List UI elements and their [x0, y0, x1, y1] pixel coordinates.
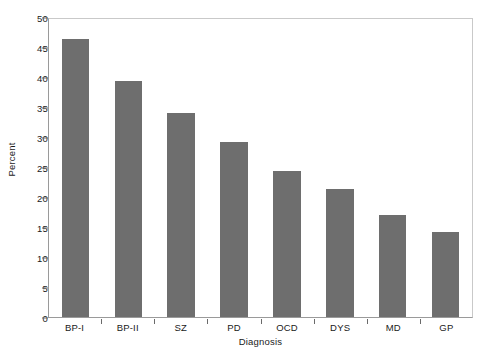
- x-axis-category-label: OCD: [261, 322, 314, 336]
- x-axis-category-label: BP-II: [101, 322, 154, 336]
- bar-slot: [208, 19, 261, 317]
- x-axis-category-label: MD: [367, 322, 420, 336]
- x-axis-category-labels: BP-IBP-IISZPDOCDDYSMDGP: [48, 322, 473, 336]
- y-axis-tick-mark: [42, 138, 48, 139]
- x-axis-category-label: SZ: [154, 322, 207, 336]
- plot-area: [48, 18, 473, 318]
- bar: [432, 232, 459, 317]
- y-axis-tick-mark: [42, 288, 48, 289]
- y-axis-tick-mark: [42, 78, 48, 79]
- bar-chart: Percent 05101520253035404550 BP-IBP-IISZ…: [0, 0, 481, 364]
- x-axis-category-label: GP: [420, 322, 473, 336]
- bar-slot: [366, 19, 419, 317]
- bar: [326, 189, 353, 317]
- bar-slot: [313, 19, 366, 317]
- x-axis-category-label: DYS: [314, 322, 367, 336]
- y-axis-title-text: Percent: [6, 142, 17, 176]
- bar: [379, 215, 406, 317]
- bar: [62, 39, 89, 317]
- y-axis-tick-mark: [42, 48, 48, 49]
- bar: [220, 142, 247, 317]
- y-axis-tick-mark: [42, 258, 48, 259]
- bar-slot: [419, 19, 472, 317]
- y-axis-tick-mark: [42, 18, 48, 19]
- y-axis-tick-mark: [42, 168, 48, 169]
- x-axis-category-label: PD: [207, 322, 260, 336]
- bar-slot: [155, 19, 208, 317]
- bar: [167, 113, 194, 317]
- bar-slot: [261, 19, 314, 317]
- y-axis-tick-mark: [42, 198, 48, 199]
- y-axis-tick-mark: [42, 318, 48, 319]
- bar: [273, 171, 300, 317]
- x-axis-category-label: BP-I: [48, 322, 101, 336]
- bars-container: [49, 19, 472, 317]
- y-axis-tick-mark: [42, 228, 48, 229]
- x-axis-title: Diagnosis: [48, 336, 473, 347]
- bar-slot: [49, 19, 102, 317]
- bar: [115, 81, 142, 317]
- bar-slot: [102, 19, 155, 317]
- y-axis-tick-labels: 05101520253035404550: [18, 0, 48, 364]
- y-axis-tick-mark: [42, 108, 48, 109]
